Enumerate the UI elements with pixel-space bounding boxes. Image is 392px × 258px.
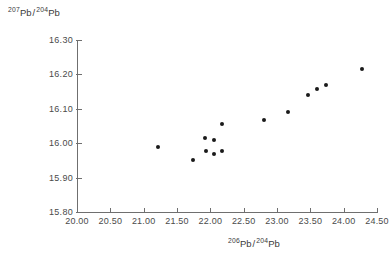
y-tick-label: 16.00 xyxy=(49,138,73,148)
x-tick-mark xyxy=(144,208,145,213)
x-tick-label: 20.00 xyxy=(65,216,89,226)
data-point xyxy=(203,136,207,140)
x-tick-mark xyxy=(277,208,278,213)
x-tick-mark xyxy=(210,208,211,213)
x-tick-mark xyxy=(377,208,378,213)
lead-isotope-scatter-plot: 207Pb/204Pb 206Pb/204Pb 15.8015.9016.001… xyxy=(0,0,392,258)
y-tick-mark-inner xyxy=(78,40,82,41)
x-tick-label: 23.50 xyxy=(299,216,323,226)
data-point xyxy=(286,110,290,114)
x-tick-label: 22.00 xyxy=(199,216,223,226)
y-tick-label: 16.30 xyxy=(49,35,73,45)
x-axis-line xyxy=(77,212,377,213)
x-tick-label: 20.50 xyxy=(99,216,123,226)
y-tick-label: 15.90 xyxy=(49,173,73,183)
x-tick-mark xyxy=(344,208,345,213)
plot-axes-area: 15.8015.9016.0016.1016.2016.30 20.0020.5… xyxy=(77,40,377,213)
y-axis-line xyxy=(77,40,78,213)
y-tick-mark-inner xyxy=(78,143,82,144)
x-tick-mark xyxy=(77,208,78,213)
x-tick-label: 23.00 xyxy=(265,216,289,226)
x-tick-mark xyxy=(244,208,245,213)
y-tick-label: 16.10 xyxy=(49,104,73,114)
data-point xyxy=(220,122,224,126)
data-point xyxy=(212,138,216,142)
x-tick-label: 22.50 xyxy=(232,216,256,226)
x-tick-label: 24.00 xyxy=(332,216,356,226)
y-tick-label: 16.20 xyxy=(49,69,73,79)
y-tick-mark-inner xyxy=(78,109,82,110)
data-point xyxy=(324,83,328,87)
x-axis-title-sup-204: 204 xyxy=(256,237,268,244)
x-tick-label: 24.50 xyxy=(365,216,389,226)
data-point xyxy=(212,152,216,156)
y-axis-title-base-pb-2: Pb xyxy=(48,7,60,18)
x-tick-mark xyxy=(177,208,178,213)
data-point xyxy=(306,93,310,97)
x-tick-label: 21.50 xyxy=(165,216,189,226)
x-tick-label: 21.00 xyxy=(132,216,156,226)
y-tick-mark-inner xyxy=(78,212,82,213)
y-axis-title-sup-207: 207 xyxy=(8,6,20,13)
x-axis-title-base-pb-1: Pb xyxy=(240,238,252,249)
y-axis-title-sup-204: 204 xyxy=(36,6,48,13)
y-tick-mark-inner xyxy=(78,178,82,179)
x-axis-title: 206Pb/204Pb xyxy=(228,237,280,249)
x-tick-mark xyxy=(110,208,111,213)
data-point xyxy=(220,149,224,153)
data-point xyxy=(204,149,208,153)
x-tick-mark xyxy=(310,208,311,213)
data-point xyxy=(360,67,364,71)
y-tick-mark-inner xyxy=(78,74,82,75)
y-axis-title-base-pb-1: Pb xyxy=(20,7,32,18)
data-point xyxy=(315,87,319,91)
y-axis-title: 207Pb/204Pb xyxy=(8,6,60,18)
data-point xyxy=(191,158,195,162)
data-point xyxy=(156,145,160,149)
x-axis-title-base-pb-2: Pb xyxy=(268,238,280,249)
x-axis-title-sup-206: 206 xyxy=(228,237,240,244)
data-point xyxy=(262,118,266,122)
